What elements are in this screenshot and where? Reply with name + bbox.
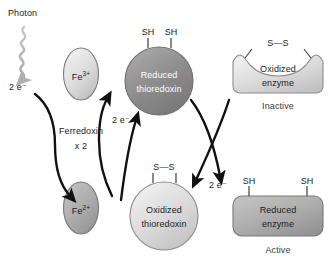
fe2-charge: 2+ [83,204,91,211]
thiol-right-label: SH [165,27,178,37]
enzyme-redox-crossing-arrows [191,100,229,180]
photon-electrons-label: 2 e⁻ [9,82,27,92]
ferredoxin-label: Ferredoxin [59,126,103,136]
ferredoxin-multiplier-label: x 2 [75,141,87,151]
oxidized-thioredoxin-label-line2: thioredoxin [141,219,186,229]
oxidized-enzyme-state-label: Inactive [262,101,294,111]
oxidized-enzyme-label-line1: Oxidized [260,64,296,74]
ferredoxin-electrons-label: 2 e⁻ [112,115,130,125]
fe3-label: Fe3+ [72,69,90,82]
oxidized-thioredoxin-label-line1: Oxidized [146,205,182,215]
thiol-left-label: SH [142,27,155,37]
reduced-enzyme-state-label: Active [265,245,290,255]
ferredoxin-cycle-arrows [35,94,112,196]
photon-wave-arrow [20,27,25,79]
disulfide-enzyme-label: S—S [267,38,288,48]
enzyme-thiol-left-label: SH [243,176,256,186]
reduced-thioredoxin-label-line2: thioredoxin [136,84,181,94]
reduced-thioredoxin-label-line1: Reduced [141,70,178,80]
fe2-label: Fe2+ [72,203,90,216]
enzyme-electrons-label: 2 e⁻ [209,180,227,190]
disulfide-thioredoxin-label: S—S [153,162,174,172]
enzyme-thiol-right-label: SH [301,176,314,186]
fe3-charge: 3+ [83,70,91,77]
reduced-enzyme-label-line1: Reduced [260,205,297,215]
photon-label: Photon [8,8,37,18]
diagram-canvas: Photon 2 e⁻ Ferredoxin x 2 Fe3+ Fe2+ 2 e… [0,0,330,268]
reduced-enzyme-label-line2: enzyme [262,219,294,229]
thioredoxin-reduction-arrow [121,120,136,200]
oxidized-enzyme-label-line2: enzyme [262,78,294,88]
